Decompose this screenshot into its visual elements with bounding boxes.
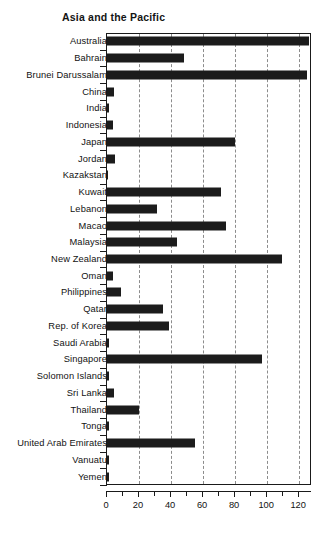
x-tick-label: 60	[197, 500, 207, 510]
bar-row: Bahrain	[0, 50, 336, 67]
bar	[107, 338, 109, 347]
bar	[107, 154, 115, 163]
bar	[107, 188, 221, 197]
bar	[107, 271, 113, 280]
x-tick-minor-110	[282, 492, 283, 496]
x-tick-60	[202, 492, 203, 497]
category-label: Australia	[70, 36, 107, 46]
x-tick-0	[106, 492, 107, 497]
bar	[107, 37, 309, 46]
bar	[107, 238, 177, 247]
bar-row: India	[0, 100, 336, 117]
category-label: Lebanon	[70, 204, 107, 214]
bar-rows: AustraliaBahrainBrunei DarussalamChinaIn…	[0, 33, 336, 485]
x-axis: 020406080100120	[106, 491, 311, 492]
category-label: United Arab Emirates	[17, 438, 107, 448]
category-label: Japan	[81, 137, 107, 147]
bar-row: Kuwait	[0, 184, 336, 201]
x-tick-40	[170, 492, 171, 497]
x-tick-minor-50	[186, 492, 187, 496]
bar-row: Indonesia	[0, 117, 336, 134]
category-label: Solomon Islands	[37, 371, 107, 381]
category-label: Kuwait	[78, 187, 107, 197]
x-tick-label: 80	[229, 500, 239, 510]
bar	[107, 221, 226, 230]
x-tick-minor-30	[154, 492, 155, 496]
bar-row: Jordan	[0, 150, 336, 167]
category-label: Singapore	[64, 354, 107, 364]
bar-row: Japan	[0, 133, 336, 150]
x-tick-120	[298, 492, 299, 497]
bar	[107, 321, 169, 330]
chart-title: Asia and the Pacific	[62, 11, 165, 23]
bar	[107, 171, 108, 180]
x-tick-label: 20	[133, 500, 143, 510]
bar-row: Solomon Islands	[0, 368, 336, 385]
category-label: Philippines	[61, 287, 107, 297]
x-tick-minor-10	[122, 492, 123, 496]
category-label: Oman	[81, 271, 107, 281]
bar-chart: Asia and the Pacific AustraliaBahrainBru…	[0, 0, 336, 539]
category-label: Saudi Arabia	[53, 338, 107, 348]
bar-row: Oman	[0, 267, 336, 284]
bar-row: Yemen	[0, 468, 336, 485]
category-label: Kazakstan	[63, 170, 107, 180]
bar	[107, 137, 235, 146]
x-tick-80	[234, 492, 235, 497]
category-label: Rep. of Korea	[48, 321, 107, 331]
bar	[107, 372, 109, 381]
bar-row: China	[0, 83, 336, 100]
x-tick-label: 40	[165, 500, 175, 510]
x-tick-label: 100	[258, 500, 274, 510]
category-label: Yemen	[78, 472, 107, 482]
bar	[107, 422, 109, 431]
bar-row: Australia	[0, 33, 336, 50]
bar-row: Philippines	[0, 284, 336, 301]
bar-row: Brunei Darussalam	[0, 66, 336, 83]
bar	[107, 204, 157, 213]
category-label: Vanuatu	[72, 455, 107, 465]
category-label: Qatar	[83, 304, 107, 314]
bar	[107, 104, 109, 113]
category-label: Brunei Darussalam	[26, 70, 107, 80]
x-tick-label: 0	[103, 500, 108, 510]
bar	[107, 87, 114, 96]
category-label: Tonga	[81, 421, 107, 431]
category-label: Thailand	[71, 405, 107, 415]
x-tick-minor-90	[250, 492, 251, 496]
bar	[107, 254, 282, 263]
category-label: Jordan	[78, 154, 107, 164]
bar-row: Sri Lanka	[0, 385, 336, 402]
bar-row: Macao	[0, 217, 336, 234]
x-tick-20	[138, 492, 139, 497]
category-label: New Zealand	[51, 254, 107, 264]
bar-row: Rep. of Korea	[0, 318, 336, 335]
category-label: India	[86, 103, 107, 113]
bar	[107, 355, 262, 364]
bar-row: Kazakstan	[0, 167, 336, 184]
x-tick-100	[266, 492, 267, 497]
bar	[107, 70, 307, 79]
bar-row: Qatar	[0, 301, 336, 318]
bar	[107, 439, 195, 448]
bar-row: Lebanon	[0, 200, 336, 217]
bar-row: New Zealand	[0, 251, 336, 268]
category-label: Malaysia	[70, 237, 107, 247]
x-tick-minor-70	[218, 492, 219, 496]
category-label: Indonesia	[66, 120, 107, 130]
category-label: Sri Lanka	[67, 388, 107, 398]
x-tick-label: 120	[290, 500, 306, 510]
bar	[107, 388, 114, 397]
bar	[107, 121, 113, 130]
bar	[107, 305, 163, 314]
bar	[107, 405, 139, 414]
bar-row: Saudi Arabia	[0, 334, 336, 351]
bar-row: Vanuatu	[0, 452, 336, 469]
category-label: Macao	[79, 221, 107, 231]
bar-row: Singapore	[0, 351, 336, 368]
bar-row: Thailand	[0, 401, 336, 418]
bar	[107, 54, 184, 63]
bar-row: United Arab Emirates	[0, 435, 336, 452]
y-tick	[100, 485, 107, 486]
bar	[107, 472, 109, 481]
